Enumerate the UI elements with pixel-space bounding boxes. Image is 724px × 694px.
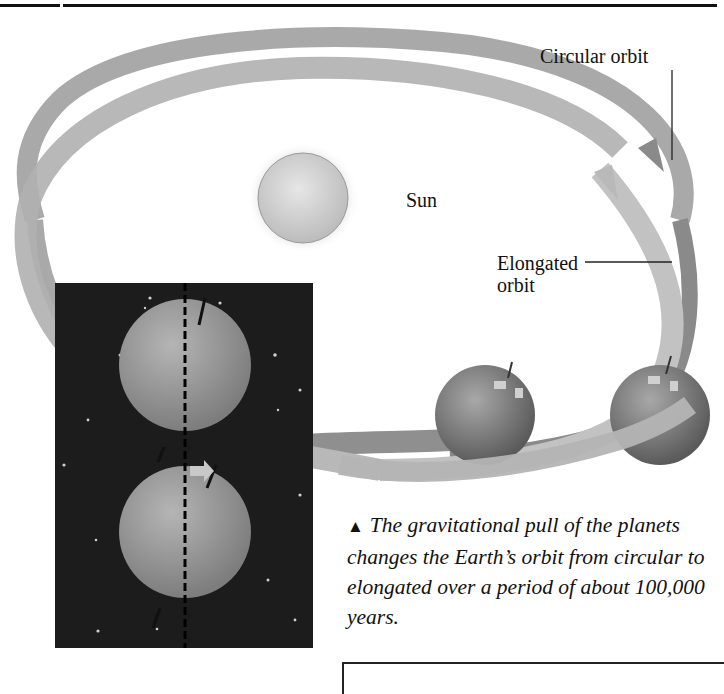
figure-caption: ▲The gravitational pull of the planets c… bbox=[347, 510, 717, 632]
earth-on-orbit-1 bbox=[435, 362, 535, 465]
elongated-orbit-label-line2: orbit bbox=[497, 274, 535, 296]
sun-icon bbox=[247, 142, 359, 254]
globe-upper-icon bbox=[119, 299, 251, 431]
circular-orbit-label: Circular orbit bbox=[540, 45, 648, 67]
sun-label: Sun bbox=[406, 189, 437, 211]
bottom-box-border bbox=[342, 662, 724, 694]
earth-tilt-inset bbox=[55, 283, 313, 648]
elongated-orbit-label: Elongated bbox=[497, 252, 578, 274]
triangle-up-icon: ▲ bbox=[347, 517, 364, 536]
caption-text: The gravitational pull of the planets ch… bbox=[347, 513, 705, 629]
